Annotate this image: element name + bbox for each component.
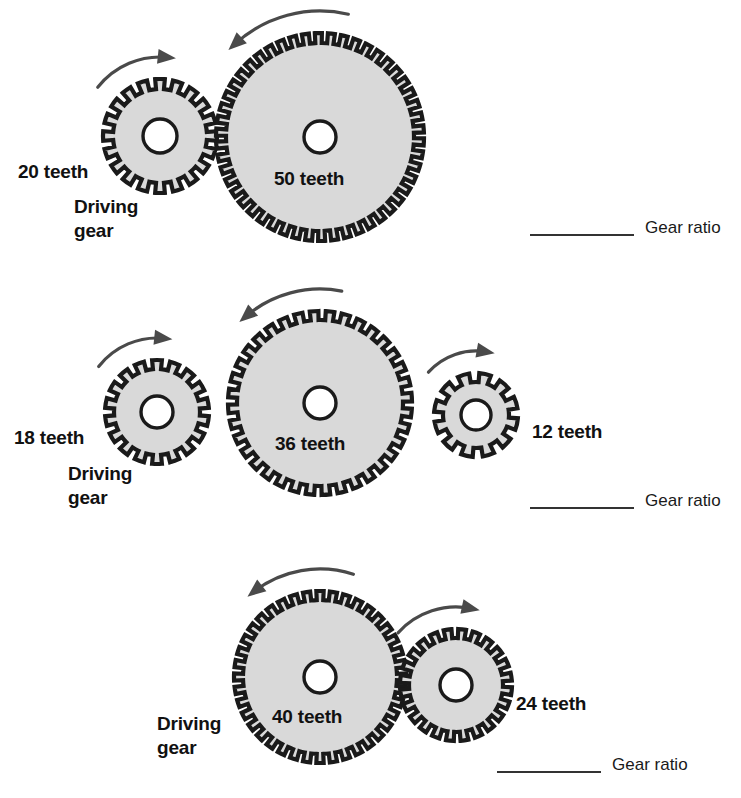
gear-hub-hole [143,119,177,153]
gear-ratio-label-row2: Gear ratio [645,491,721,511]
driving-gear-label-row3-line2: gear [157,736,196,759]
gear-teeth-label-18: 18 teeth [14,426,84,449]
gear-50-teeth[interactable] [216,33,424,241]
driving-gear-label-row1-line2: gear [74,219,113,242]
gear-24-teeth[interactable] [400,629,512,741]
gear-12-teeth[interactable] [434,373,518,457]
gear-40-teeth[interactable] [234,591,406,763]
rotation-arrow-clockwise-24 [398,599,480,633]
gear-teeth-label-24: 24 teeth [516,692,586,715]
driving-gear-label-row3-line1: Driving [157,712,221,735]
gear-teeth-label-20: 20 teeth [18,160,88,183]
gear-teeth-label-36: 36 teeth [275,432,345,455]
gear-teeth-label-12: 12 teeth [532,420,602,443]
gear-diagram-canvas [0,0,741,798]
gear-row-3 [234,591,512,763]
gear-teeth-label-40: 40 teeth [272,705,342,728]
gear-18-teeth[interactable] [105,360,209,464]
rotation-arrow-clockwise-12 [428,343,494,372]
gear-hub-hole [141,396,173,428]
gear-hub-hole [304,661,336,693]
driving-gear-label-row2-line2: gear [68,486,107,509]
gear-ratio-label-row1: Gear ratio [645,218,721,238]
gear-ratio-answer-blank-row2[interactable] [530,487,634,509]
gear-ratio-label-row3: Gear ratio [612,755,688,775]
gear-ratio-answer-blank-row1[interactable] [530,214,634,236]
gear-hub-hole [304,121,336,153]
driving-gear-label-row2-line1: Driving [68,462,132,485]
driving-gear-label-row1-line1: Driving [74,195,138,218]
gear-hub-hole [304,387,336,419]
gear-hub-hole [440,669,472,701]
gear-ratio-answer-blank-row3[interactable] [497,751,601,773]
gear-teeth-label-50: 50 teeth [274,167,344,190]
gear-hub-hole [461,400,491,430]
gear-worksheet: 20 teeth Driving gear 50 teeth Gear rati… [0,0,741,798]
gear-36-teeth[interactable] [228,311,412,495]
gear-20-teeth[interactable] [103,79,217,193]
gear-row-1 [103,33,424,241]
